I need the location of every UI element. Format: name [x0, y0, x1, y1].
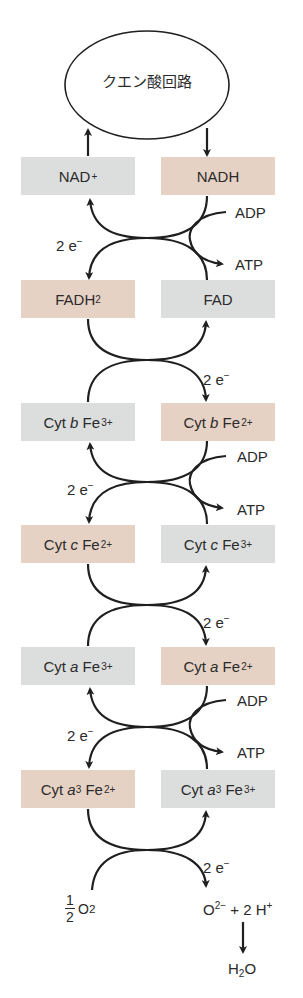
charge: 3+ — [101, 417, 112, 428]
electron-label-5: 2 e− — [67, 726, 94, 744]
citric-acid-cycle-label: クエン酸回路 — [65, 70, 229, 91]
atp-label-2: ATP — [237, 501, 265, 518]
charge: 3+ — [241, 539, 252, 550]
nad-plus-box: NAD+ — [21, 157, 135, 195]
cyt-letter: c — [71, 536, 79, 553]
charge: − — [224, 858, 230, 869]
electron-text: 2 e — [56, 237, 77, 254]
charge: − — [88, 480, 94, 491]
cyt-c-fe3-box: Cyt c Fe3+ — [161, 525, 275, 563]
charge: 2+ — [101, 539, 112, 550]
cyt-prefix: Cyt — [43, 414, 70, 431]
cyt-b-fe2-box: Cyt b Fe2+ — [161, 403, 275, 441]
adp-label-3: ADP — [237, 692, 268, 709]
charge: 2+ — [241, 661, 252, 672]
cyt-letter: c — [211, 536, 219, 553]
numerator: 1 — [66, 893, 74, 907]
cyt-letter: a — [210, 658, 218, 675]
water-label: H2O — [228, 960, 256, 979]
redox-chain-graphic — [0, 0, 303, 998]
fe-text: Fe — [78, 536, 100, 553]
cyt-a3-fe2-box: Cyt a3 Fe2+ — [21, 770, 135, 808]
subscript: 2 — [95, 294, 101, 305]
fe-text: Fe — [218, 414, 240, 431]
cyt-letter: a — [67, 781, 75, 798]
fraction: 1 2 — [65, 893, 75, 924]
charge: 2+ — [104, 784, 115, 795]
cyt-prefix: Cyt — [41, 781, 68, 798]
fe-text: Fe — [221, 781, 243, 798]
electron-label-3: 2 e− — [67, 480, 94, 498]
atp-label-1: ATP — [235, 256, 263, 273]
electron-text: 2 e — [203, 859, 224, 876]
fe-text: Fe — [218, 536, 240, 553]
electron-label-2: 2 e− — [203, 370, 230, 388]
fe-text: Fe — [218, 658, 240, 675]
cyt-prefix: Cyt — [183, 658, 210, 675]
charge: − — [224, 370, 230, 381]
cyt-letter: a — [207, 781, 215, 798]
electron-label-6: 2 e− — [203, 858, 230, 876]
cyt-prefix: Cyt — [181, 781, 208, 798]
cyt-letter: a — [70, 658, 78, 675]
charge: + — [91, 171, 97, 182]
charge: 3+ — [101, 661, 112, 672]
cyt-prefix: Cyt — [44, 536, 71, 553]
cyt-b-fe3-box: Cyt b Fe3+ — [21, 403, 135, 441]
plus-protons: + 2 H — [230, 901, 266, 918]
charge: − — [88, 726, 94, 737]
cyt-a3-fe3-box: Cyt a3 Fe3+ — [161, 770, 275, 808]
nad-plus-text: NAD — [59, 168, 91, 185]
charge: − — [224, 613, 230, 624]
electron-text: 2 e — [203, 371, 224, 388]
subscript: 2 — [89, 902, 95, 915]
electron-label-4: 2 e− — [203, 613, 230, 631]
cyt-prefix: Cyt — [183, 414, 210, 431]
cyt-prefix: Cyt — [43, 658, 70, 675]
fe-text: Fe — [81, 781, 103, 798]
cyt-letter: b — [210, 414, 218, 431]
nadh-box: NADH — [161, 157, 275, 195]
oxygen-symbol: O — [78, 901, 89, 917]
fadh2-box: FADH2 — [21, 280, 135, 318]
electron-text: 2 e — [67, 727, 88, 744]
nadh-text: NADH — [197, 168, 240, 185]
adp-label-1: ADP — [235, 204, 266, 221]
fe-text: Fe — [78, 658, 100, 675]
hydrogen-symbol: H — [228, 960, 239, 977]
fadh-text: FADH — [55, 291, 95, 308]
fad-text: FAD — [203, 291, 232, 308]
half-oxygen-label: 1 2 O2 — [65, 893, 95, 924]
cyt-a-fe2-box: Cyt a Fe2+ — [161, 647, 275, 685]
cyt-letter: b — [70, 414, 78, 431]
charge: 2− — [215, 900, 226, 911]
denominator: 2 — [66, 910, 74, 924]
fad-box: FAD — [161, 280, 275, 318]
electron-text: 2 e — [203, 614, 224, 631]
electron-text: 2 e — [67, 481, 88, 498]
adp-label-2: ADP — [237, 448, 268, 465]
cyt-c-fe2-box: Cyt c Fe2+ — [21, 525, 135, 563]
atp-label-3: ATP — [237, 744, 265, 761]
oxide-ion: O — [203, 901, 215, 918]
cyt-prefix: Cyt — [184, 536, 211, 553]
charge: 2+ — [241, 417, 252, 428]
electron-label-1: 2 e− — [56, 236, 83, 254]
charge: + — [267, 900, 273, 911]
fe-text: Fe — [78, 414, 100, 431]
charge: − — [77, 236, 83, 247]
oxide-plus-protons-label: O2− + 2 H+ — [203, 900, 272, 918]
cyt-a-fe3-box: Cyt a Fe3+ — [21, 647, 135, 685]
oxygen-symbol: O — [244, 960, 256, 977]
charge: 3+ — [244, 784, 255, 795]
